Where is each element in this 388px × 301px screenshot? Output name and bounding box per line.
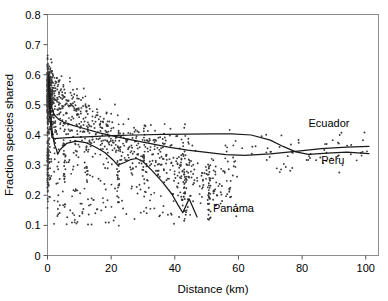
scatter-point xyxy=(265,151,267,153)
scatter-point xyxy=(58,80,60,82)
scatter-point xyxy=(226,146,228,148)
scatter-point xyxy=(72,96,74,98)
scatter-point xyxy=(100,144,102,146)
scatter-point xyxy=(79,192,81,194)
scatter-point xyxy=(122,151,124,153)
scatter-point xyxy=(60,108,62,110)
scatter-point xyxy=(76,133,78,135)
scatter-point xyxy=(192,184,194,186)
scatter-point xyxy=(180,162,182,164)
scatter-point xyxy=(59,204,61,206)
scatter-point xyxy=(74,104,76,106)
scatter-point xyxy=(74,142,76,144)
scatter-point xyxy=(137,193,139,195)
scatter-point xyxy=(58,96,60,98)
scatter-point xyxy=(155,140,157,142)
scatter-point xyxy=(206,169,208,171)
scatter-point xyxy=(133,127,135,129)
scatter-point xyxy=(178,156,180,158)
scatter-point xyxy=(174,177,176,179)
scatter-point xyxy=(93,123,95,125)
scatter-point xyxy=(182,145,184,147)
scatter-point xyxy=(93,199,95,201)
scatter-point xyxy=(134,131,136,133)
scatter-point xyxy=(184,158,186,160)
scatter-point xyxy=(47,180,49,182)
scatter-point xyxy=(117,160,119,162)
scatter-point xyxy=(177,182,179,184)
scatter-point xyxy=(227,161,229,163)
scatter-point xyxy=(77,144,79,146)
scatter-point xyxy=(71,94,73,96)
scatter-point xyxy=(192,173,194,175)
scatter-point xyxy=(102,202,104,204)
scatter-point xyxy=(235,215,237,217)
scatter-point xyxy=(116,174,118,176)
scatter-point xyxy=(86,125,88,127)
scatter-point xyxy=(78,116,80,118)
scatter-point xyxy=(128,157,130,159)
scatter-point xyxy=(125,140,127,142)
scatter-point xyxy=(338,143,340,145)
scatter-point xyxy=(72,118,74,120)
scatter-point xyxy=(269,156,271,158)
y-tick-label: 0.1 xyxy=(25,219,40,231)
scatter-point xyxy=(102,148,104,150)
scatter-point xyxy=(51,101,53,103)
scatter-point xyxy=(110,113,112,115)
scatter-point xyxy=(60,111,62,113)
scatter-point xyxy=(200,202,202,204)
scatter-point xyxy=(306,159,308,161)
scatter-point xyxy=(48,131,50,133)
scatter-point xyxy=(62,84,64,86)
y-tick-label: 0.7 xyxy=(25,39,40,51)
scatter-point xyxy=(350,144,352,146)
scatter-point xyxy=(85,117,87,119)
scatter-point xyxy=(156,147,158,149)
scatter-point xyxy=(54,80,56,82)
scatter-point xyxy=(149,199,151,201)
scatter-point xyxy=(167,214,169,216)
x-tick-label: 60 xyxy=(232,262,244,274)
scatter-point xyxy=(98,118,100,120)
scatter-point xyxy=(82,97,84,99)
scatter-point xyxy=(118,201,120,203)
scatter-point xyxy=(48,128,50,130)
scatter-point xyxy=(147,130,149,132)
scatter-point xyxy=(57,168,59,170)
scatter-point xyxy=(73,107,75,109)
scatter-point xyxy=(90,204,92,206)
scatter-point xyxy=(62,191,64,193)
scatter-point xyxy=(214,171,216,173)
scatter-point xyxy=(217,185,219,187)
scatter-point xyxy=(149,208,151,210)
scatter-point xyxy=(139,146,141,148)
scatter-point xyxy=(171,161,173,163)
scatter-point xyxy=(84,162,86,164)
scatter-point xyxy=(91,139,93,141)
scatter-point xyxy=(99,98,101,100)
scatter-point xyxy=(56,215,58,217)
scatter-point xyxy=(95,114,97,116)
scatter-point xyxy=(221,194,223,196)
scatter-point xyxy=(54,122,56,124)
scatter-point xyxy=(179,191,181,193)
scatter-point xyxy=(154,145,156,147)
scatter-point xyxy=(96,108,98,110)
scatter-point xyxy=(103,118,105,120)
scatter-point xyxy=(136,144,138,146)
scatter-point xyxy=(188,176,190,178)
scatter-point xyxy=(69,77,71,79)
scatter-point xyxy=(168,178,170,180)
x-tick-label: 80 xyxy=(296,262,308,274)
scatter-point xyxy=(212,159,214,161)
scatter-point xyxy=(226,180,228,182)
scatter-point xyxy=(213,169,215,171)
scatter-point xyxy=(48,139,50,141)
scatter-point xyxy=(56,101,58,103)
scatter-point xyxy=(166,179,168,181)
scatter-point xyxy=(188,143,190,145)
scatter-point xyxy=(222,170,224,172)
scatter-point xyxy=(92,120,94,122)
scatter-point xyxy=(143,128,145,130)
